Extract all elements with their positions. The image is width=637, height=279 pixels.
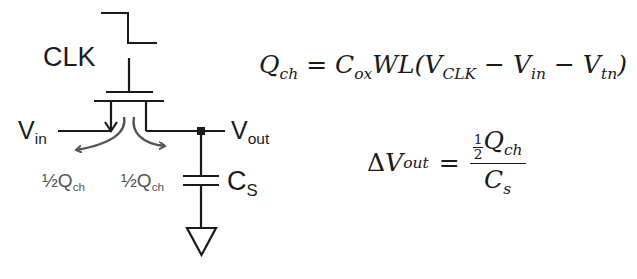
eq1-vin: V [513, 50, 531, 79]
eq1-lhs: Q [259, 50, 280, 79]
charge-left-main: ½Q [42, 170, 73, 191]
vout-subscript: out [248, 130, 270, 147]
eq1-wl: WL( [372, 50, 424, 79]
channel-charge-equation: Qch = CoxWL(VCLK − Vin − Vtn) [259, 50, 627, 83]
charge-right-main: ½Q [121, 170, 152, 191]
eq2-den-sub: s [503, 180, 511, 198]
eq2-den-c: C [484, 165, 503, 194]
eq1-vclk: V [424, 50, 442, 79]
output-voltage-change-equation: ΔVout = 12Qch Cs [367, 127, 526, 198]
eq2-lhs-sub: out [403, 154, 429, 172]
eq2-half: 12 [473, 133, 484, 162]
eq1-vtn: V [583, 50, 601, 79]
eq2-denominator: Cs [484, 164, 511, 199]
eq1-equals: = [306, 50, 327, 79]
eq2-lhs: V [385, 148, 403, 177]
cap-subscript: S [247, 181, 258, 200]
vin-label: Vin [18, 116, 47, 148]
eq2-fraction: 12Qch Cs [470, 127, 526, 198]
eq2-num-q: Q [483, 126, 504, 155]
vin-subscript: in [35, 130, 47, 147]
clock-label: CLK [43, 42, 96, 73]
eq2-numerator: 12Qch [470, 127, 526, 164]
vin-main: V [18, 116, 35, 144]
eq1-minus2: − [554, 50, 575, 79]
circuit-schematic [0, 0, 637, 279]
eq1-vin-sub: in [531, 65, 546, 83]
output-node-dot [197, 127, 205, 135]
cap-main: C [227, 166, 247, 196]
eq2-delta: Δ [367, 148, 385, 177]
capacitor-label: CS [227, 166, 258, 201]
charge-injection-arrows [76, 117, 165, 150]
charge-right-label: ½Qch [121, 170, 164, 193]
ground-icon [187, 228, 216, 255]
eq2-num-sub: ch [504, 141, 523, 159]
nmos-transistor [94, 58, 164, 131]
eq1-cox: C [335, 50, 354, 79]
vout-main: V [231, 116, 248, 144]
eq1-lhs-sub: ch [280, 65, 299, 83]
eq1-close: ) [617, 50, 627, 79]
eq1-vtn-sub: tn [601, 65, 617, 83]
eq1-cox-sub: ox [354, 65, 372, 83]
charge-left-label: ½Qch [42, 170, 85, 193]
eq2-equals: = [439, 148, 460, 177]
vout-label: Vout [231, 116, 269, 148]
eq1-vclk-sub: CLK [442, 65, 476, 83]
charge-right-subscript: ch [152, 180, 164, 193]
clock-waveform [101, 13, 157, 43]
charge-left-subscript: ch [73, 180, 85, 193]
eq1-minus1: − [484, 50, 505, 79]
